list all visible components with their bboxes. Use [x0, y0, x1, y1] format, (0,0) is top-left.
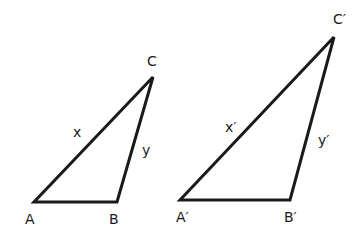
side-label-y-prime: y′ — [318, 132, 329, 148]
similar-triangles-diagram: A B C x y A′ B′ C′ x′ y′ — [0, 0, 361, 235]
side-label-y: y — [142, 142, 150, 158]
vertex-label-c-prime: C′ — [333, 11, 346, 27]
vertex-label-c: C — [147, 53, 157, 69]
diagram-canvas: A B C x y A′ B′ C′ x′ y′ — [0, 0, 361, 235]
side-label-x-prime: x′ — [225, 119, 236, 135]
triangle-abc — [34, 77, 153, 202]
side-label-x: x — [73, 124, 81, 140]
vertex-label-a-prime: A′ — [176, 209, 189, 225]
vertex-label-a: A — [25, 211, 35, 227]
vertex-label-b-prime: B′ — [284, 209, 297, 225]
vertex-label-b: B — [109, 211, 119, 227]
triangle-abc-prime — [180, 37, 334, 200]
